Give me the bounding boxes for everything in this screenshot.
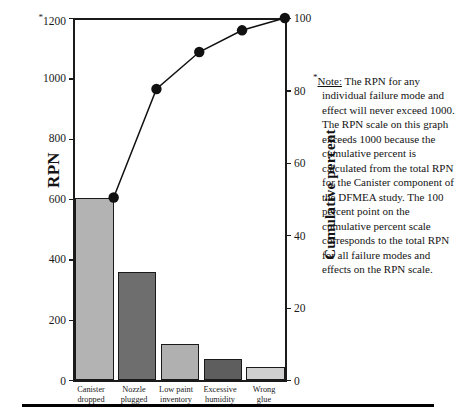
y-tick-left-200: 200 [8,315,66,327]
tickmark-right-60 [287,163,291,164]
plot-area [73,18,287,382]
y-tick-left-1200: *1200 [8,13,66,27]
tickmark-right-20 [287,308,291,309]
cumulative-point-0 [108,192,118,202]
y-tick-left-400: 400 [8,254,66,266]
cumulative-point-4 [280,13,290,23]
x-category-label-4-line1: Wrong [240,385,288,395]
cumulative-point-3 [237,25,247,35]
pareto-chart: RPN Cumulative percent *1200 1000 800 60… [0,0,456,419]
y-tick-left-800: 800 [8,133,66,145]
x-category-label-3-line1: Excessive [194,385,246,395]
tickmark-right-0 [287,380,291,381]
footnote: *Note: The RPN for any individual failur… [313,72,456,277]
x-category-label-3: Excessive humidity [194,385,246,406]
tickmark-right-40 [287,235,291,236]
footnote-text: The RPN for any individual failure mode … [322,75,455,276]
footnote-label: Note: [318,75,342,87]
cumulative-line-layer [73,18,287,382]
y-tick-right-20: 20 [294,303,306,315]
y-tick-left-0: 0 [8,376,66,388]
cumulative-markers [108,13,290,203]
bottom-rule [22,404,434,407]
cumulative-point-1 [151,84,161,94]
y-tick-right-100: 100 [294,13,311,25]
cumulative-line [114,18,285,198]
left-axis-title: RPN [44,110,64,230]
y-tick-left-1000: 1000 [8,73,66,85]
y-tick-right-0: 0 [294,376,300,388]
y-tick-right-60: 60 [294,158,306,170]
x-category-label-4: Wrong glue [240,385,288,406]
y-tick-right-40: 40 [294,231,306,243]
y-tick-left-1200-value: 1200 [43,15,66,27]
y-tick-right-80: 80 [294,86,306,98]
cumulative-point-2 [194,47,204,57]
y-tick-left-600: 600 [8,194,66,206]
tickmark-right-80 [287,90,291,91]
